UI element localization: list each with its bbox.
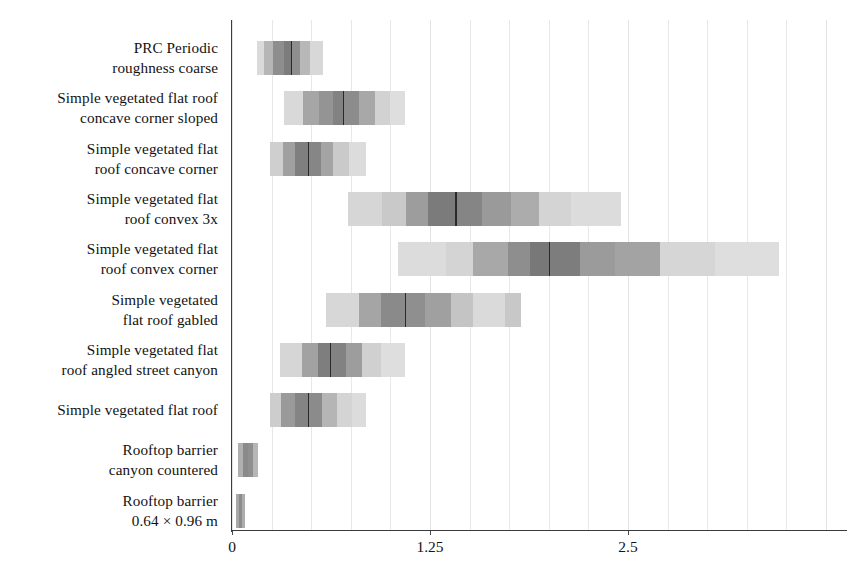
density-band — [390, 91, 405, 125]
density-band — [303, 91, 319, 125]
y-axis-label: Simple vegetated flatroof convex corner — [87, 239, 218, 279]
density-band — [349, 142, 365, 176]
density-bar — [398, 242, 778, 276]
y-axis-label-line1: Simple vegetated flat roof — [57, 400, 218, 420]
median-line — [455, 192, 456, 226]
density-band — [270, 142, 283, 176]
y-axis-label: Simple vegetated flatroof convex 3x — [87, 189, 218, 229]
density-band — [333, 142, 349, 176]
density-band — [398, 242, 446, 276]
y-axis-label: Simple vegetated flatroof concave corner — [87, 139, 218, 179]
chart-container: PRC Periodicroughness coarseSimple veget… — [0, 0, 862, 581]
density-band — [308, 142, 321, 176]
plot-area — [232, 20, 845, 530]
density-band — [375, 91, 391, 125]
density-band — [455, 192, 483, 226]
density-band — [295, 142, 308, 176]
density-band — [549, 242, 581, 276]
density-band — [326, 293, 360, 327]
median-line — [308, 393, 309, 427]
density-band — [321, 142, 334, 176]
density-band — [451, 293, 474, 327]
x-axis-tick-label: 2.5 — [618, 538, 637, 556]
density-band — [428, 192, 456, 226]
density-band — [308, 393, 323, 427]
density-band — [580, 242, 615, 276]
density-band — [539, 192, 571, 226]
density-band — [715, 242, 779, 276]
y-axis-category-labels: PRC Periodicroughness coarseSimple veget… — [0, 20, 226, 530]
density-band — [352, 393, 365, 427]
y-axis-label-line1: Simple vegetated flat — [87, 139, 218, 159]
density-bar — [348, 192, 620, 226]
y-axis-label: Simple vegetated flatroof angled street … — [62, 340, 218, 380]
density-band — [337, 393, 353, 427]
density-bar — [280, 343, 405, 377]
density-band — [571, 192, 621, 226]
x-axis-tick-label: 1.25 — [416, 538, 443, 556]
density-band — [242, 494, 246, 528]
density-band — [270, 393, 282, 427]
density-band — [405, 293, 426, 327]
density-band — [473, 242, 508, 276]
density-band — [310, 41, 323, 75]
density-bar — [284, 91, 404, 125]
y-axis-label-line2: roof angled street canyon — [62, 360, 218, 380]
x-axis-spine — [231, 530, 847, 531]
density-band — [318, 343, 331, 377]
density-band — [530, 242, 550, 276]
density-bar — [326, 293, 521, 327]
density-band — [381, 343, 405, 377]
gridline — [826, 20, 827, 530]
y-axis-label-line2: canyon countered — [109, 460, 218, 480]
y-axis-label-line2: 0.64 × 0.96 m — [122, 511, 218, 531]
density-band — [505, 293, 521, 327]
density-bar — [236, 494, 245, 528]
x-axis-tick — [430, 531, 431, 535]
density-bar — [238, 443, 257, 477]
y-axis-label: Rooftop barriercanyon countered — [109, 440, 218, 480]
density-band — [511, 192, 540, 226]
y-axis-label-line1: PRC Periodic — [112, 38, 218, 58]
y-axis-spine — [231, 20, 232, 532]
y-axis-label: Simple vegetated flat roofconcave corner… — [57, 88, 218, 128]
density-band — [359, 293, 382, 327]
density-band — [359, 91, 375, 125]
density-band — [508, 242, 531, 276]
x-axis-tick — [628, 531, 629, 535]
density-band — [330, 343, 346, 377]
density-band — [319, 91, 334, 125]
y-axis-label: Simple vegetated flat roof — [57, 400, 218, 420]
median-line — [405, 293, 406, 327]
density-band — [322, 393, 337, 427]
density-band — [446, 242, 474, 276]
density-band — [425, 293, 451, 327]
density-band — [482, 192, 511, 226]
y-axis-label-line1: Simple vegetated flat — [87, 239, 218, 259]
density-band — [381, 293, 405, 327]
density-band — [406, 192, 429, 226]
y-axis-label-line1: Rooftop barrier — [122, 491, 218, 511]
y-axis-label-line2: concave corner sloped — [57, 108, 218, 128]
median-line — [291, 41, 292, 75]
density-band — [253, 443, 258, 477]
y-axis-label-line2: roughness coarse — [112, 58, 218, 78]
x-axis-tick — [232, 531, 233, 535]
density-band — [280, 343, 303, 377]
density-band — [302, 343, 318, 377]
median-line — [308, 142, 309, 176]
density-band — [343, 91, 359, 125]
density-bar — [270, 142, 365, 176]
median-line — [330, 343, 331, 377]
density-band — [362, 343, 382, 377]
density-band — [281, 393, 296, 427]
y-axis-label-line2: roof concave corner — [87, 159, 218, 179]
density-bar — [270, 393, 365, 427]
density-band — [284, 91, 304, 125]
density-band — [348, 192, 383, 226]
y-axis-label-line1: Simple vegetated — [111, 290, 218, 310]
y-axis-label-line2: flat roof gabled — [111, 310, 218, 330]
x-axis-tick-label: 0 — [228, 538, 236, 556]
y-axis-label: Rooftop barrier0.64 × 0.96 m — [122, 491, 218, 531]
density-bar — [257, 41, 322, 75]
